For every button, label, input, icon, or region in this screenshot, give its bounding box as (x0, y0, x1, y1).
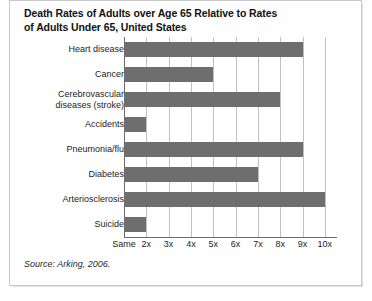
x-tick-label: 10x (318, 239, 333, 249)
category-label: Arteriosclerosis (28, 194, 124, 205)
bar-row: Cancer (24, 62, 346, 82)
bar-row: Accidents (24, 112, 346, 132)
chart-title-line-1: Death Rates of Adults over Age 65 Relati… (24, 7, 277, 19)
category-label: Heart disease (28, 44, 124, 55)
x-tick-label: 9x (298, 239, 308, 249)
x-tick-label: 8x (275, 239, 285, 249)
category-label: Cancer (28, 69, 124, 80)
bar-row: Arteriosclerosis (24, 187, 346, 207)
category-label: Suicide (28, 219, 124, 230)
x-axis-line (124, 237, 337, 238)
category-label: Cerebrovascular diseases (stroke) (28, 89, 124, 110)
bar-row: Heart disease (24, 37, 346, 57)
chart-plot-area: Heart diseaseCancerCerebrovascular disea… (24, 37, 346, 237)
x-tick-label: 3x (164, 239, 174, 249)
bar-row: Pneumonia/flu (24, 137, 346, 157)
bar-row: Diabetes (24, 162, 346, 182)
chart-title: Death Rates of Adults over Age 65 Relati… (24, 7, 350, 34)
x-tick-label: 5x (208, 239, 218, 249)
bar (124, 142, 303, 157)
bar (124, 42, 303, 57)
x-tick-label: 4x (186, 239, 196, 249)
x-tick-label: Same (112, 239, 136, 249)
x-tick-label: 7x (253, 239, 263, 249)
figure-panel: Death Rates of Adults over Age 65 Relati… (9, 0, 362, 286)
bar (124, 117, 146, 132)
source-note: Source: Arking, 2006. (24, 259, 110, 269)
x-tick-label: 6x (231, 239, 241, 249)
bar-row: Suicide (24, 212, 346, 232)
x-axis-tick-labels: Same2x3x4x5x6x7x8x9x10x (24, 239, 346, 253)
category-label: Accidents (28, 119, 124, 130)
category-label: Pneumonia/flu (28, 144, 124, 155)
bar (124, 67, 213, 82)
bar (124, 217, 146, 232)
bar-row: Cerebrovascular diseases (stroke) (24, 87, 346, 107)
bar (124, 92, 280, 107)
category-label: Diabetes (28, 169, 124, 180)
bar (124, 167, 258, 182)
bar (124, 192, 325, 207)
x-tick-label: 2x (142, 239, 152, 249)
chart-title-line-2: of Adults Under 65, United States (24, 21, 187, 33)
